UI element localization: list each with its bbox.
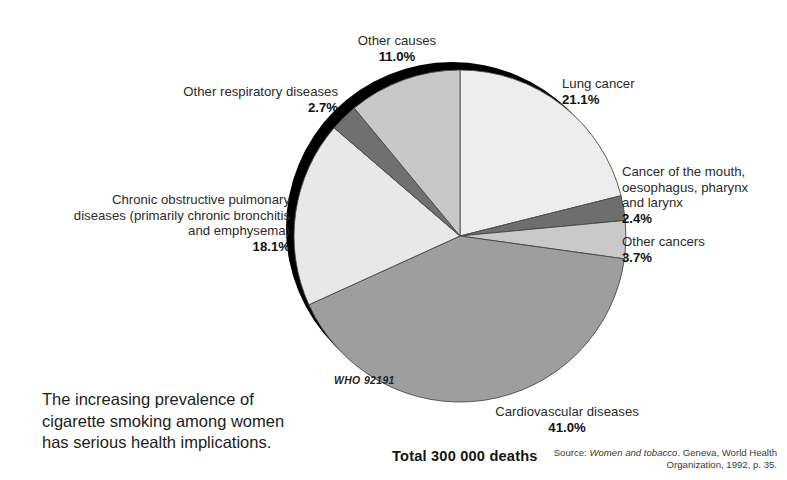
- slice-label-other-causes-name: Other causes: [358, 33, 436, 48]
- slice-label-mouth-cancer-line3: and larynx: [622, 195, 683, 210]
- who-reference-code: WHO 92191: [334, 375, 395, 386]
- slice-label-copd-pct: 18.1%: [42, 239, 290, 255]
- slice-label-mouth-cancer: Cancer of the mouth, oesophagus, pharynx…: [622, 164, 782, 226]
- source-prefix: Source:: [554, 447, 590, 458]
- slice-label-copd-line3: and emphysema): [188, 223, 290, 238]
- slice-label-lung-cancer-pct: 21.1%: [562, 92, 762, 108]
- slice-label-mouth-cancer-line1: Cancer of the mouth,: [622, 164, 745, 179]
- slice-label-other-respiratory-name: Other respiratory diseases: [183, 84, 338, 99]
- figure-caption: The increasing prevalence of cigarette s…: [42, 389, 302, 454]
- slice-label-other-cancers-name: Other cancers: [622, 234, 705, 249]
- slice-label-mouth-cancer-pct: 2.4%: [622, 211, 782, 227]
- slice-label-other-causes-pct: 11.0%: [312, 49, 482, 65]
- slice-label-cardiovascular-name: Cardiovascular diseases: [495, 404, 639, 419]
- slice-label-other-cancers: Other cancers 3.7%: [622, 234, 782, 265]
- slice-label-mouth-cancer-line2: oesophagus, pharynx: [622, 180, 748, 195]
- source-title: Women and tobacco: [589, 447, 677, 458]
- slice-label-lung-cancer-name: Lung cancer: [562, 76, 635, 91]
- slice-label-copd-line2: diseases (primarily chronic bronchitis: [74, 208, 290, 223]
- pie-chart-figure: Other causes 11.0% Lung cancer 21.1% Can…: [0, 0, 787, 480]
- slice-label-other-cancers-pct: 3.7%: [622, 250, 782, 266]
- slice-label-lung-cancer: Lung cancer 21.1%: [562, 76, 762, 107]
- slice-label-other-respiratory: Other respiratory diseases 2.7%: [120, 84, 338, 115]
- source-citation: Source: Women and tobacco. Geneva, World…: [547, 447, 777, 472]
- slice-label-cardiovascular: Cardiovascular diseases 41.0%: [452, 404, 682, 435]
- slice-label-copd-line1: Chronic obstructive pulmonary: [112, 192, 290, 207]
- slice-label-other-causes: Other causes 11.0%: [312, 33, 482, 64]
- slice-label-copd: Chronic obstructive pulmonary diseases (…: [42, 192, 290, 254]
- source-rest: . Geneva, World Health Organization, 199…: [667, 447, 777, 470]
- slice-label-other-respiratory-pct: 2.7%: [120, 100, 338, 116]
- pie-slices-group: [294, 70, 626, 402]
- slice-label-cardiovascular-pct: 41.0%: [452, 420, 682, 436]
